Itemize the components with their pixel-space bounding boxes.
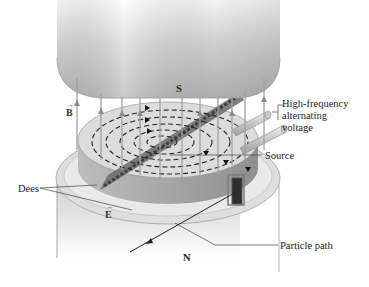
electric-field-label: → E [105,209,112,220]
particle-path-label: Particle path [280,240,333,251]
voltage-label-line3: voltage [282,122,313,133]
dees-label: Dees [18,183,39,194]
cyclotron-diagram: S N → B → E High-frequency alternating v… [0,0,369,287]
voltage-label-line2: alternating [282,110,327,121]
source-label: Source [265,150,294,161]
magnet-north-label: N [183,252,191,263]
magnetic-field-label: → B [66,107,73,118]
vector-arrow-icon: → [67,101,74,109]
voltage-label-line1: High-frequency [282,98,348,109]
magnet-south-label: S [176,83,182,94]
dees [78,92,258,205]
top-magnet-pole [57,0,280,98]
vector-arrow-icon: → [106,203,113,211]
